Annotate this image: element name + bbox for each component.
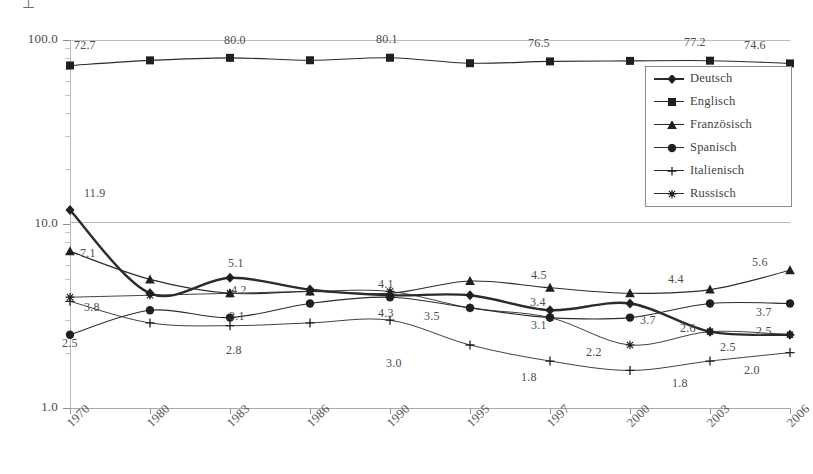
marker-triangle: [667, 121, 677, 129]
data-value-label: 1.8: [672, 376, 688, 391]
marker-square: [626, 57, 634, 65]
data-value-label: 80.1: [376, 32, 398, 47]
data-value-label: 2.8: [226, 343, 242, 358]
data-value-label: 4.4: [668, 272, 684, 287]
marker-asterisk: [146, 291, 155, 300]
marker-plus: [668, 167, 677, 176]
marker-asterisk: [626, 341, 635, 350]
data-value-label: 2.6: [680, 321, 696, 336]
legend-marker-circle-icon: [654, 142, 684, 154]
data-value-label: 7.1: [80, 246, 96, 261]
data-value-label: 3.8: [84, 300, 100, 315]
data-value-label: 74.6: [744, 38, 766, 53]
legend-marker-diamond-icon: [654, 73, 684, 85]
marker-plus: [706, 357, 715, 366]
legend-marker-plus-icon: [654, 165, 684, 177]
data-value-label: 4.3: [378, 306, 394, 321]
data-value-label: 77.2: [684, 35, 706, 50]
marker-asterisk: [306, 287, 315, 296]
data-value-label: 3.5: [424, 309, 440, 324]
data-value-label: 2.0: [744, 363, 760, 378]
data-value-label: 3.7: [640, 313, 656, 328]
marker-circle: [306, 299, 314, 307]
series-französisch: [65, 246, 795, 297]
marker-square: [546, 57, 554, 65]
marker-asterisk: [66, 293, 75, 302]
marker-asterisk: [546, 313, 555, 322]
legend-label: Spanisch: [690, 140, 737, 155]
legend-label: Russisch: [690, 186, 736, 201]
marker-square: [306, 56, 314, 64]
marker-diamond: [466, 290, 475, 300]
legend-item-deutsch[interactable]: Deutsch: [646, 67, 791, 90]
legend-symbol: [665, 167, 679, 181]
legend-item-russisch[interactable]: Russisch: [646, 182, 791, 205]
marker-asterisk: [706, 327, 715, 336]
legend-label: Italienisch: [690, 163, 744, 178]
legend-label: Deutsch: [690, 71, 732, 86]
marker-square: [146, 56, 154, 64]
legend-item-italienisch[interactable]: Italienisch: [646, 159, 791, 182]
marker-triangle: [65, 246, 75, 255]
marker-diamond: [226, 273, 235, 283]
marker-square: [706, 57, 714, 65]
marker-square: [386, 54, 394, 62]
data-value-label: 1.8: [521, 370, 537, 385]
data-value-label: 5.1: [228, 256, 244, 271]
marker-plus: [306, 318, 315, 327]
marker-circle: [668, 144, 676, 152]
series-line: [70, 58, 790, 66]
marker-plus: [466, 340, 475, 349]
data-value-label: 2.5: [720, 340, 736, 355]
data-value-label: 3.1: [531, 318, 547, 333]
data-value-label: 3.0: [386, 356, 402, 371]
marker-plus: [786, 348, 795, 357]
legend-marker-square-icon: [654, 96, 684, 108]
data-value-label: 3.4: [530, 295, 546, 310]
data-value-label: 2.5: [756, 324, 772, 339]
marker-plus: [626, 366, 635, 375]
marker-circle: [626, 313, 634, 321]
marker-circle: [786, 299, 794, 307]
data-value-label: 3.7: [756, 305, 772, 320]
legend-symbol: [665, 98, 679, 112]
legend-item-spanisch[interactable]: Spanisch: [646, 136, 791, 159]
legend-marker-triangle-icon: [654, 119, 684, 131]
data-value-label: 11.9: [84, 186, 105, 201]
data-value-label: 80.0: [224, 33, 246, 48]
data-value-label: 72.7: [74, 38, 96, 53]
legend-marker-asterisk-icon: [654, 188, 684, 200]
marker-circle: [706, 299, 714, 307]
data-value-label: 3.1: [229, 309, 245, 324]
data-value-label: 4.2: [231, 283, 247, 298]
legend-label: Französisch: [690, 117, 752, 132]
legend-item-französisch[interactable]: Französisch: [646, 113, 791, 136]
marker-diamond: [668, 75, 677, 84]
marker-plus: [546, 357, 555, 366]
marker-asterisk: [466, 304, 475, 313]
legend-symbol: [665, 144, 679, 158]
data-value-label: 2.2: [586, 345, 602, 360]
marker-circle: [146, 306, 154, 314]
data-value-label: 4.1: [378, 277, 394, 292]
legend-symbol: [665, 190, 679, 204]
chart-legend: DeutschEnglischFranzösischSpanischItalie…: [645, 66, 792, 207]
legend-symbol: [665, 75, 679, 89]
marker-square: [226, 54, 234, 62]
data-value-label: 2.5: [62, 336, 78, 351]
marker-triangle: [785, 265, 795, 274]
legend-item-englisch[interactable]: Englisch: [646, 90, 791, 113]
marker-diamond: [626, 298, 635, 308]
data-value-label: 5.6: [752, 255, 768, 270]
marker-asterisk: [668, 190, 677, 198]
marker-asterisk: [786, 330, 795, 339]
marker-square: [66, 61, 74, 69]
data-value-label: 76.5: [528, 36, 550, 51]
marker-plus: [146, 318, 155, 327]
marker-square: [668, 98, 676, 106]
marker-square: [466, 59, 474, 67]
legend-symbol: [665, 121, 679, 135]
data-value-label: 4.5: [531, 268, 547, 283]
legend-label: Englisch: [690, 94, 735, 109]
